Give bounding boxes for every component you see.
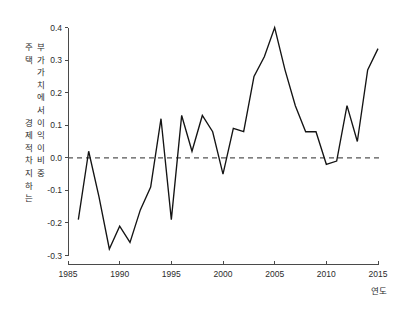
x-tick-label: 2015	[369, 269, 388, 279]
y-axis-title-char: 택	[25, 55, 33, 65]
y-tick-label: 0.1	[50, 120, 62, 130]
y-axis-title-char: 지	[25, 168, 33, 178]
chart-figure: 0.40.30.20.10.0-0.1-0.2-0.3 주택부가가치에서경제적이…	[0, 0, 408, 311]
y-axis-title-char: 적	[25, 143, 33, 153]
x-axis-title-label: 연도	[371, 286, 387, 296]
y-axis-title-char: 중	[37, 168, 45, 178]
y-tick-label: -0.3	[47, 251, 62, 261]
x-tick-label: 2000	[214, 269, 233, 279]
y-axis-title-char: 이	[37, 143, 45, 153]
y-tick-label: -0.1	[47, 185, 62, 195]
y-tick-label: 0.4	[50, 23, 62, 33]
x-tick-label: 2010	[317, 269, 336, 279]
y-axis-title-char: 익	[37, 130, 45, 140]
line-chart: 0.40.30.20.10.0-0.1-0.2-0.3 주택부가가치에서경제적이…	[0, 0, 408, 311]
y-axis-title-char: 이	[37, 118, 45, 128]
y-axis-title-char: 에	[37, 92, 45, 102]
x-tick-label: 1985	[59, 269, 78, 279]
y-axis-title-char: 가	[37, 67, 45, 77]
y-tick-label: 0.2	[50, 88, 62, 98]
y-tick-label: 0.0	[50, 153, 62, 163]
y-axis-title-char: 제	[25, 130, 33, 140]
x-tick-label: 1995	[162, 269, 181, 279]
x-tick-label: 2005	[265, 269, 284, 279]
y-tick-label: 0.3	[50, 55, 62, 65]
y-axis-title-char: 서	[37, 105, 45, 115]
y-axis-title-char: 차	[25, 155, 33, 165]
y-axis-title-char: 부	[37, 42, 45, 52]
y-axis-title-char: 치	[37, 80, 45, 90]
y-axis-title-char: 는	[25, 193, 33, 203]
y-axis-title-char: 비	[37, 155, 45, 165]
y-axis-title-char: 주	[25, 42, 33, 52]
y-axis-title-char: 가	[37, 55, 45, 65]
x-tick-label: 1990	[110, 269, 129, 279]
y-axis-title-char: 하	[25, 181, 33, 191]
y-axis-title-char: 경	[25, 118, 33, 128]
y-tick-label: -0.2	[47, 218, 62, 228]
